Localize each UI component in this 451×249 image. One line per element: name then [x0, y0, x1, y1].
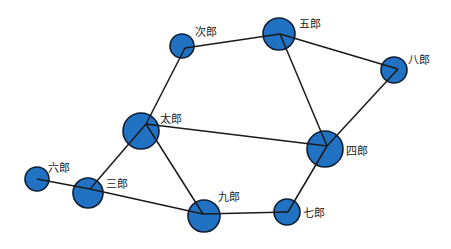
- edge-hachiro-shiro: [327, 69, 398, 146]
- node-label-saburo: 三郎: [106, 177, 128, 191]
- node-hachiro: [381, 57, 407, 83]
- node-label-rokuro: 六郎: [48, 161, 70, 175]
- edge-saburo-kuro: [90, 189, 203, 214]
- edge-taro-kuro: [146, 124, 203, 214]
- node-label-taro: 太郎: [160, 112, 182, 126]
- node-label-jiro: 次郎: [195, 25, 217, 39]
- network-graph: 太郎次郎三郎四郎五郎六郎七郎八郎九郎: [0, 0, 451, 249]
- nodes-layer: [25, 18, 407, 232]
- node-kuro: [188, 200, 220, 232]
- node-label-hachiro: 八郎: [408, 53, 430, 67]
- edge-shichiro-shiro: [288, 146, 327, 212]
- node-label-kuro: 九郎: [218, 190, 240, 204]
- labels-layer: 太郎次郎三郎四郎五郎六郎七郎八郎九郎: [48, 17, 430, 220]
- edge-goro-hachiro: [280, 34, 398, 69]
- edges-layer: [37, 34, 398, 214]
- node-label-goro: 五郎: [299, 17, 321, 31]
- node-label-shichiro: 七郎: [303, 206, 325, 220]
- node-label-shiro: 四郎: [346, 144, 368, 158]
- edge-goro-shiro: [280, 34, 327, 146]
- node-saburo: [73, 178, 103, 208]
- edge-taro-shiro: [146, 124, 327, 146]
